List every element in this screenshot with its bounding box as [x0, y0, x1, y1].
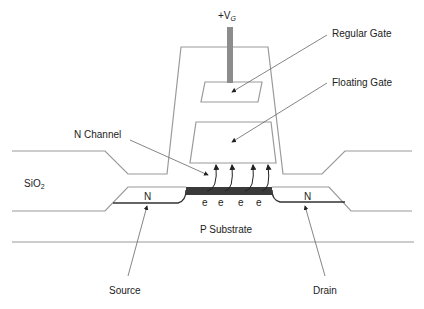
- substrate-label: P Substrate: [200, 225, 252, 235]
- oxide-label: SiO2: [24, 179, 45, 190]
- diagram-canvas: +VG Regular Gate Floating Gate N Channel…: [0, 0, 424, 309]
- drain-n-label: N: [304, 192, 311, 202]
- leader-drain: [305, 206, 325, 276]
- regular-gate-label: Regular Gate: [332, 29, 391, 39]
- electron-1: e: [202, 198, 208, 208]
- electron-2: e: [218, 198, 224, 208]
- floating-gate-label: Floating Gate: [332, 78, 392, 88]
- oxide-bottom-outline: [12, 187, 186, 211]
- n-channel-label: N Channel: [74, 130, 121, 140]
- transistor-diagram: [0, 0, 424, 309]
- electron-4: e: [256, 198, 262, 208]
- electron-3: e: [238, 198, 244, 208]
- drain-label: Drain: [313, 286, 337, 296]
- source-n-label: N: [144, 192, 151, 202]
- gate-voltage-label: +VG: [218, 11, 236, 22]
- regular-gate: [201, 82, 262, 102]
- gate-lead: [227, 27, 233, 83]
- leader-source: [128, 206, 147, 276]
- source-label: Source: [109, 286, 141, 296]
- floating-gate: [190, 122, 276, 163]
- leader-regular-gate: [232, 35, 327, 92]
